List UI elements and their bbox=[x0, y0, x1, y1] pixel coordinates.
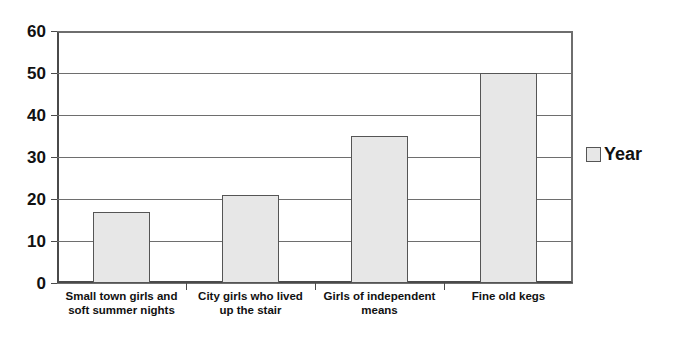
y-axis-tick-label: 50 bbox=[4, 65, 46, 82]
y-axis-tickmark bbox=[51, 283, 57, 284]
legend-swatch-icon bbox=[586, 147, 601, 162]
y-axis-tickmark bbox=[51, 115, 57, 116]
y-axis-tickmark bbox=[51, 73, 57, 74]
y-axis-tickmark bbox=[51, 199, 57, 200]
legend-label: Year bbox=[604, 145, 642, 163]
bar bbox=[480, 73, 537, 283]
y-axis-tick-label: 40 bbox=[4, 107, 46, 124]
x-axis-category-label: Girls of independent means bbox=[315, 289, 444, 317]
bar bbox=[222, 195, 279, 283]
bar-chart: 0102030405060 Small town girls and soft … bbox=[0, 0, 680, 340]
y-axis-tick-label: 20 bbox=[4, 191, 46, 208]
legend: Year bbox=[586, 145, 642, 163]
bar bbox=[93, 212, 150, 283]
gridline bbox=[57, 31, 573, 32]
x-axis-category-label: City girls who lived up the stair bbox=[186, 289, 315, 317]
y-axis-tick-label: 10 bbox=[4, 233, 46, 250]
y-axis-tickmark bbox=[51, 157, 57, 158]
y-axis-tick-label: 60 bbox=[4, 23, 46, 40]
y-axis-tick-label: 0 bbox=[4, 275, 46, 292]
y-axis-tick-labels: 0102030405060 bbox=[0, 0, 46, 340]
y-axis-tick-label: 30 bbox=[4, 149, 46, 166]
y-axis-tickmark bbox=[51, 241, 57, 242]
plot-area bbox=[57, 31, 573, 283]
x-axis-category-label: Fine old kegs bbox=[444, 289, 573, 303]
x-axis-category-label: Small town girls and soft summer nights bbox=[57, 289, 186, 317]
y-axis-tickmark bbox=[51, 31, 57, 32]
bar bbox=[351, 136, 408, 283]
